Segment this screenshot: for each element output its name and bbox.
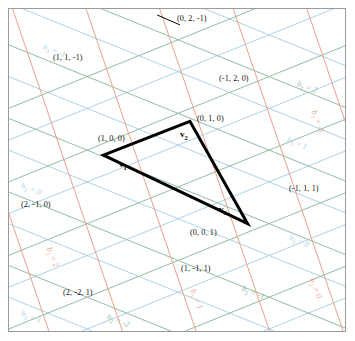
- line-b3-up: [9, 9, 345, 156]
- point-label: (0, 0, 1): [190, 228, 217, 237]
- vector-label-v3: v3: [219, 204, 227, 216]
- point-label: (-1, 2, 0): [219, 74, 249, 83]
- figure-frame: (0, 2, -1) (1, 1, -1) (-1, 2, 0) (0, 1, …: [8, 8, 346, 332]
- vector-sub: 1: [124, 164, 127, 171]
- point-label: (1, -1, 1): [181, 264, 211, 273]
- line-label-sub: 1: [45, 252, 52, 257]
- point-label: (2, -1, 0): [21, 200, 51, 209]
- vector-sub: 3: [224, 209, 227, 216]
- line-b3: [9, 208, 345, 331]
- line-label-sub: 1: [310, 115, 317, 120]
- line-label-sub: 1: [189, 294, 196, 299]
- line-label-sub: 3: [291, 239, 296, 246]
- vector-sub: 2: [185, 134, 188, 141]
- line-label-sub: 2: [299, 85, 304, 92]
- line-b1: [73, 9, 222, 331]
- line-label-sub: 3: [289, 141, 294, 148]
- line-b2: [9, 176, 345, 331]
- line-label-sub: 2: [244, 290, 249, 297]
- point-label: (0, 2, -1): [177, 14, 207, 23]
- line-label-sub: 1: [308, 283, 315, 288]
- line-label-sub: 2: [109, 318, 114, 325]
- line-b3: [9, 281, 345, 331]
- line-label-sub: 3: [23, 315, 28, 322]
- point-label: (-1, 1, 1): [289, 184, 319, 193]
- figure-root: (0, 2, -1) (1, 1, -1) (-1, 2, 0) (0, 1, …: [0, 0, 355, 341]
- line-label-sub: 3: [45, 48, 50, 55]
- vector-label-v2: v2: [180, 129, 188, 141]
- point-label: (0, 1, 0): [197, 114, 224, 123]
- point-label: (1, 0, 0): [98, 134, 125, 143]
- line-b3-up: [9, 273, 345, 331]
- line-label-sub: 3: [23, 187, 28, 194]
- vector-label-v1: v1: [119, 159, 127, 171]
- point-label: (2, -2, 1): [63, 288, 93, 297]
